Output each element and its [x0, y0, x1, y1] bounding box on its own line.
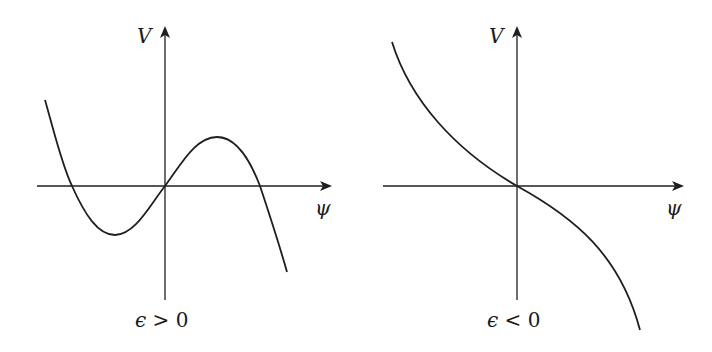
right-condition-label: ϵ < 0: [487, 308, 540, 332]
left-psi-axis-label: ψ: [315, 196, 331, 220]
left-epsilon-symbol: ϵ: [135, 308, 146, 332]
right-epsilon-symbol: ϵ: [487, 308, 498, 332]
right-panel: [383, 28, 682, 330]
left-panel: [37, 28, 330, 300]
left-v-axis-label: V: [137, 24, 151, 48]
left-value: 0: [176, 308, 189, 332]
right-value: 0: [528, 308, 541, 332]
left-relation: >: [153, 308, 170, 332]
left-condition-label: ϵ > 0: [135, 308, 188, 332]
right-psi-axis-label: ψ: [666, 196, 682, 220]
potential-diagram: [0, 0, 712, 352]
right-v-axis-label: V: [489, 24, 503, 48]
right-relation: <: [505, 308, 522, 332]
